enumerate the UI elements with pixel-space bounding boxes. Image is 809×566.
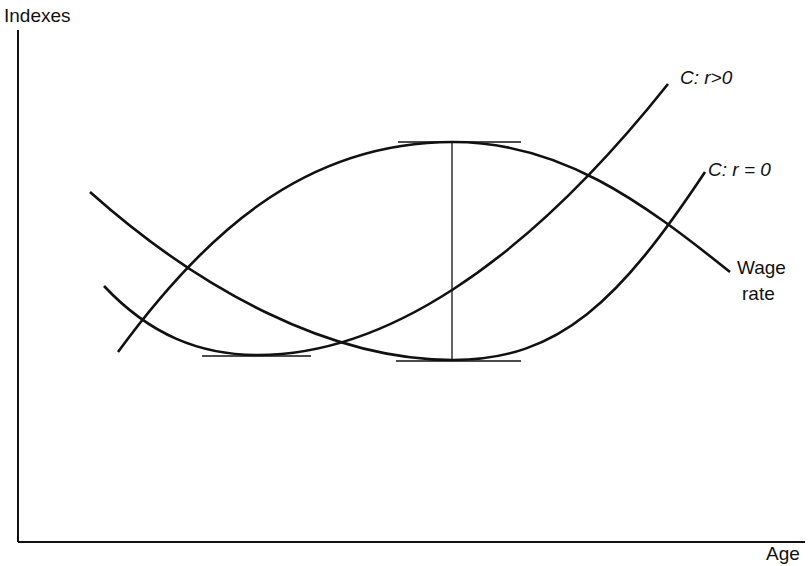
consumption-r-positive-curve: [104, 84, 668, 355]
c-r-zero-rest: r = 0: [732, 159, 771, 180]
x-axis-label: Age: [766, 544, 800, 563]
label-c-r-zero: C: r = 0: [708, 160, 771, 179]
c-r-positive-prefix: C:: [680, 67, 699, 88]
y-axis-label: Indexes: [4, 6, 71, 25]
c-r-zero-prefix: C:: [708, 159, 727, 180]
label-c-r-positive: C: r>0: [680, 68, 732, 87]
c-r-positive-rest: r>0: [704, 67, 732, 88]
consumption-r-zero-curve: [90, 172, 705, 360]
wage-rate-curve: [118, 142, 730, 352]
label-wage-line2: rate: [742, 284, 775, 303]
label-wage-line1: Wage: [737, 258, 786, 277]
